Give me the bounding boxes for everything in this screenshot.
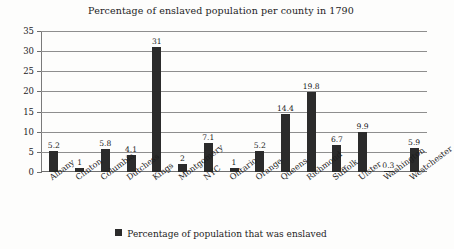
gridline	[41, 112, 427, 113]
bar-value-label: 5.2	[246, 142, 274, 150]
gridline	[41, 31, 427, 32]
bar-value-label: 5.2	[40, 142, 68, 150]
chart-legend: Percentage of population that was enslav…	[0, 228, 442, 239]
gridline	[41, 152, 427, 153]
bar-value-label: 19.8	[297, 83, 325, 91]
bar-value-label: 6.7	[323, 136, 351, 144]
bar-value-label: 7.1	[194, 134, 222, 142]
bar-value-label: 5.8	[91, 140, 119, 148]
y-axis-tick-label: 5	[0, 148, 34, 157]
legend-swatch-icon	[115, 229, 122, 236]
y-axis-tick-label: 0	[0, 168, 34, 177]
y-axis-tick-label: 10	[0, 128, 34, 137]
chart-title: Percentage of enslaved population per co…	[0, 5, 442, 16]
bar-value-label: 5.9	[400, 139, 428, 147]
y-axis-tick-label: 25	[0, 67, 34, 76]
gridline	[41, 91, 427, 92]
bar-value-label: 9.9	[349, 123, 377, 131]
plot-area	[41, 31, 427, 172]
y-axis-tick-label: 30	[0, 47, 34, 56]
gridline	[41, 71, 427, 72]
y-axis-tick-mark	[37, 172, 41, 173]
bar-value-label: 14.4	[271, 105, 299, 113]
gridline	[41, 51, 427, 52]
y-axis-tick-label: 15	[0, 108, 34, 117]
bar-value-label: 31	[143, 38, 171, 46]
bar[interactable]	[307, 92, 316, 172]
y-axis-tick-label: 35	[0, 27, 34, 36]
gridline	[41, 132, 427, 133]
legend-label: Percentage of population that was enslav…	[127, 229, 327, 239]
y-axis-tick-label: 20	[0, 87, 34, 96]
